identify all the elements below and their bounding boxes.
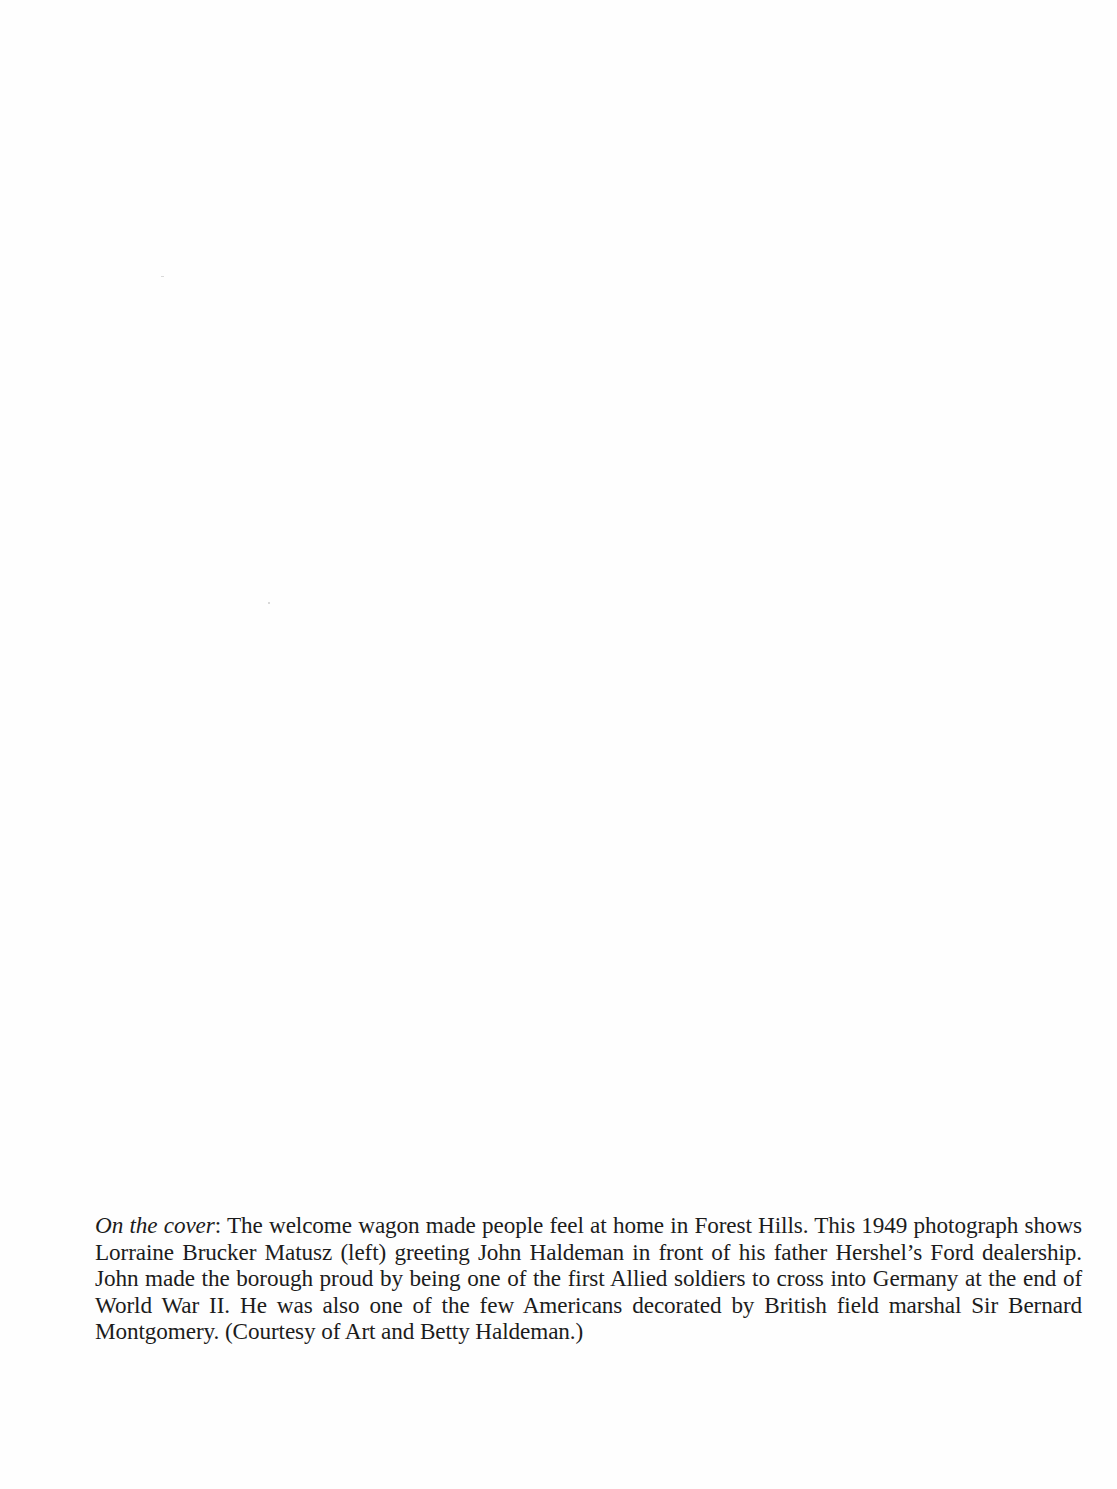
cover-caption: On the cover: The welcome wagon made peo… bbox=[95, 1212, 1082, 1345]
book-page: On the cover: The welcome wagon made peo… bbox=[0, 0, 1117, 1489]
caption-lead-suffix: : bbox=[215, 1212, 227, 1238]
caption-lead: On the cover bbox=[95, 1212, 215, 1238]
scan-speck bbox=[161, 276, 164, 277]
scan-speck bbox=[268, 602, 270, 604]
caption-body: The welcome wagon made people feel at ho… bbox=[95, 1212, 1082, 1344]
